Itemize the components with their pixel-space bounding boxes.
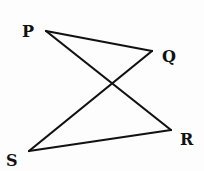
geometry-diagram: P Q R S — [0, 0, 204, 171]
label-r: R — [180, 130, 194, 149]
segment-pr — [46, 31, 171, 130]
label-q: Q — [162, 47, 176, 66]
label-s: S — [6, 151, 18, 170]
label-p: P — [22, 22, 34, 41]
diagram-svg: P Q R S — [0, 0, 204, 171]
segment-pq — [46, 31, 152, 51]
